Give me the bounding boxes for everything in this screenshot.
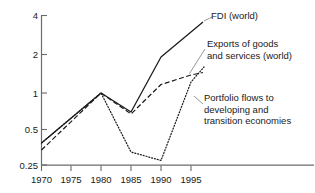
leader-line-exports bbox=[190, 49, 206, 74]
chart-figure: 4 2 1 0.5 0.25 1970 1975 1980 1985 1990 … bbox=[0, 0, 315, 193]
series-line-fdi bbox=[42, 22, 204, 143]
y-tick-label-4: 4 bbox=[14, 11, 38, 21]
series-annotation-portfolio-line-1: Portfolio flows to bbox=[204, 92, 291, 104]
y-tick-label-0-5: 0.5 bbox=[10, 125, 38, 135]
series-annotation-portfolio-line-3: transition economies bbox=[204, 115, 291, 127]
series-line-exports bbox=[42, 73, 204, 151]
series-annotation-portfolio: Portfolio flows to developing and transi… bbox=[204, 92, 291, 127]
x-tick-label-1980: 1980 bbox=[87, 175, 116, 185]
series-line-portfolio bbox=[42, 67, 205, 161]
x-tick-label-1970: 1970 bbox=[27, 175, 56, 185]
x-tick-label-1990: 1990 bbox=[147, 175, 176, 185]
series-annotation-portfolio-line-2: developing and bbox=[204, 104, 291, 116]
series-annotation-exports-line-2: and services (world) bbox=[207, 50, 292, 62]
y-tick-label-1: 1 bbox=[14, 89, 38, 99]
x-axis-ticks bbox=[42, 166, 192, 172]
series-annotation-fdi: FDI (world) bbox=[211, 10, 258, 22]
y-tick-label-0-25: 0.25 bbox=[4, 161, 38, 171]
x-tick-label-1985: 1985 bbox=[117, 175, 146, 185]
series-annotation-fdi-line-1: FDI (world) bbox=[211, 10, 258, 22]
series-annotation-exports-line-1: Exports of goods bbox=[207, 38, 292, 50]
leader-line-portfolio bbox=[194, 96, 203, 104]
x-tick-label-1975: 1975 bbox=[57, 175, 86, 185]
y-tick-label-2: 2 bbox=[14, 50, 38, 60]
series-annotation-exports: Exports of goods and services (world) bbox=[207, 38, 292, 61]
x-tick-label-1995: 1995 bbox=[177, 175, 206, 185]
